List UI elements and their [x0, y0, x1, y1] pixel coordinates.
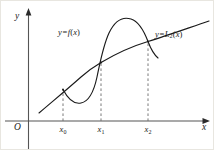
x-tick-label-x2: x2 [145, 125, 152, 135]
x-tick-label-x1-subscript: 1 [101, 129, 104, 135]
x-tick-label-x2-subscript: 2 [148, 129, 151, 135]
curve-label-interpolant-close-paren: ) [180, 29, 183, 39]
x-tick-label-x1: x1 [98, 125, 105, 135]
lagrange-interpolation-figure: y O x y=f(x) y=L2(x) x0 x1 x2 [0, 0, 214, 150]
x-tick-label-x0: x0 [60, 125, 67, 135]
y-axis-label: y [15, 12, 19, 22]
y-axis-arrow-icon [26, 8, 32, 16]
node-marker-x1 [100, 61, 102, 63]
x-axis-label: x [202, 123, 206, 133]
x-tick-label-x0-subscript: 0 [63, 129, 66, 135]
node-marker-x0 [62, 89, 64, 91]
origin-label: O [14, 123, 21, 133]
curve-label-interpolant: y=L2(x) [155, 30, 182, 39]
node-marker-x2 [147, 41, 149, 43]
curve-label-function: y=f(x) [58, 28, 80, 37]
plot-canvas [1, 1, 214, 150]
curve-label-function-close-paren: ) [77, 27, 80, 37]
